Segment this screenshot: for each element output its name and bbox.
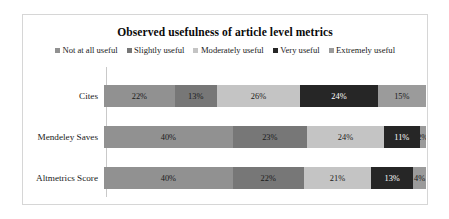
legend-label: Very useful bbox=[280, 46, 319, 55]
bar-segment[interactable]: 22% bbox=[104, 85, 175, 107]
chart-legend: Not at all useful Slightly useful Modera… bbox=[23, 46, 427, 55]
bar-segment[interactable]: 2% bbox=[420, 126, 426, 148]
category-label: Altmetrics Score bbox=[23, 173, 103, 183]
legend-item-moderately-useful[interactable]: Moderately useful bbox=[193, 46, 263, 55]
legend-swatch-icon bbox=[55, 48, 60, 53]
legend-swatch-icon bbox=[193, 48, 198, 53]
category-label: Cites bbox=[23, 91, 103, 101]
legend-swatch-icon bbox=[329, 48, 334, 53]
legend-swatch-icon bbox=[273, 48, 278, 53]
table-row: Cites 22% 13% 26% 24% 15% bbox=[23, 85, 427, 107]
legend-item-not-at-all-useful[interactable]: Not at all useful bbox=[55, 46, 118, 55]
bar-segment[interactable]: 13% bbox=[371, 167, 413, 189]
bar-segment[interactable]: 40% bbox=[104, 167, 233, 189]
bar-segment[interactable]: 15% bbox=[378, 85, 426, 107]
legend-swatch-icon bbox=[127, 48, 132, 53]
legend-label: Moderately useful bbox=[201, 46, 264, 55]
legend-label: Not at all useful bbox=[62, 46, 117, 55]
table-row: Altmetrics Score 40% 22% 21% 13% 4% bbox=[23, 167, 427, 189]
bar-segment[interactable]: 40% bbox=[104, 126, 233, 148]
legend-label: Slightly useful bbox=[134, 46, 184, 55]
category-label: Mendeley Saves bbox=[23, 132, 103, 142]
legend-item-very-useful[interactable]: Very useful bbox=[273, 46, 320, 55]
table-row: Mendeley Saves 40% 23% 24% 11% 2% bbox=[23, 126, 427, 148]
chart-container: Observed usefulness of article level met… bbox=[22, 14, 428, 205]
legend-item-extremely-useful[interactable]: Extremely useful bbox=[329, 46, 395, 55]
stacked-bar: 40% 22% 21% 13% 4% bbox=[104, 167, 426, 189]
bar-segment[interactable]: 24% bbox=[300, 85, 377, 107]
legend-item-slightly-useful[interactable]: Slightly useful bbox=[127, 46, 185, 55]
bar-segment[interactable]: 11% bbox=[384, 126, 419, 148]
bar-segment[interactable]: 26% bbox=[217, 85, 301, 107]
bar-segment[interactable]: 4% bbox=[413, 167, 426, 189]
stacked-bar: 22% 13% 26% 24% 15% bbox=[104, 85, 426, 107]
legend-label: Extremely useful bbox=[336, 46, 395, 55]
chart-title: Observed usefulness of article level met… bbox=[23, 26, 427, 38]
plot-area: Cites 22% 13% 26% 24% 15% Mendeley Saves… bbox=[23, 65, 427, 206]
stacked-bar: 40% 23% 24% 11% 2% bbox=[104, 126, 426, 148]
bar-segment[interactable]: 23% bbox=[233, 126, 307, 148]
bar-segment[interactable]: 13% bbox=[175, 85, 217, 107]
bar-segment[interactable]: 24% bbox=[307, 126, 384, 148]
bar-segment[interactable]: 22% bbox=[233, 167, 304, 189]
bar-segment[interactable]: 21% bbox=[304, 167, 372, 189]
